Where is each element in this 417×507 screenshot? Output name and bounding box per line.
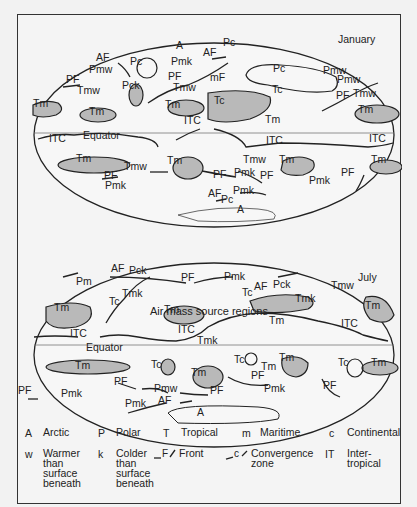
air-mass-label: Pc — [223, 36, 235, 48]
air-mass-label: Pc — [273, 62, 285, 74]
air-mass-label: Tc — [214, 94, 225, 106]
air-mass-label: AF — [96, 51, 109, 63]
air-mass-label: Tm — [75, 359, 90, 371]
air-mass-label: Pck — [122, 79, 140, 91]
air-mass-label: Tm — [191, 366, 206, 378]
air-mass-label: Pmk — [233, 184, 255, 196]
air-mass-label: AF — [158, 394, 171, 406]
air-mass-label: Tm — [279, 153, 294, 165]
air-mass-label: AF — [254, 280, 267, 292]
air-mass-label: A — [176, 39, 183, 51]
air-mass-label: Tmw — [353, 87, 376, 99]
legend-item-warmer: w Warmerthansurfacebeneath — [25, 448, 81, 488]
july-map: PmkAFPckPmPFAFPckTmwTmkTmkTcTcTmTmTmTmIT… — [18, 262, 398, 447]
air-mass-label: Tmw — [77, 84, 100, 96]
air-mass-label: Tmw — [173, 81, 196, 93]
air-mass-label: PF — [336, 89, 349, 101]
air-mass-label: Tm — [265, 113, 280, 125]
air-mass-label: Tm — [358, 103, 373, 115]
svg-text:F: F — [162, 448, 168, 459]
figure-caption: Air mass source regions — [18, 305, 400, 317]
january-map: AFPmwPcAPmkAFPcPFTmwPckmFPFTmwPcTcPmwPmw… — [33, 33, 402, 227]
svg-text:c: c — [234, 448, 239, 459]
legend-item-tropical: TTropical — [163, 427, 218, 439]
air-mass-label: ITC — [70, 327, 87, 339]
legend-item-maritime: mMaritime — [242, 427, 300, 439]
air-mass-label: AF — [203, 46, 216, 58]
air-mass-label: mF — [210, 71, 225, 83]
air-mass-label: ITC — [369, 132, 386, 144]
july-season-label: July — [358, 271, 377, 283]
air-mass-label: Pc — [130, 55, 142, 67]
air-mass-label: Pmk — [171, 55, 193, 67]
air-mass-label: A — [197, 406, 204, 418]
air-mass-label: Tm — [279, 351, 294, 363]
air-mass-label: Tm — [33, 97, 48, 109]
air-mass-label: Pmk — [125, 397, 147, 409]
air-mass-label: Pmk — [234, 166, 256, 178]
air-mass-label: ITC — [341, 317, 358, 329]
air-mass-label: Pmk — [105, 179, 127, 191]
air-mass-label: Tmk — [295, 292, 316, 304]
air-mass-label: Tc — [242, 286, 253, 298]
legend-item-arctic: AArctic — [25, 427, 69, 439]
air-mass-label: A — [237, 203, 244, 215]
air-mass-label: Tmk — [197, 334, 218, 346]
air-mass-label: Tc — [338, 356, 349, 368]
air-mass-label: PF — [18, 384, 31, 396]
air-mass-label: Pmk — [61, 387, 83, 399]
air-mass-label: ITC — [49, 132, 66, 144]
legend-item-colder: k Colderthansurfacebeneath — [98, 448, 154, 488]
air-mass-label: Tmw — [243, 153, 266, 165]
air-mass-label: Pmw — [89, 63, 113, 75]
air-mass-label: Tmk — [122, 287, 143, 299]
air-mass-label: Pmk — [309, 174, 331, 186]
air-mass-label: Equator — [86, 341, 123, 353]
air-mass-label: Pmk — [264, 382, 286, 394]
air-mass-label: Tc — [272, 83, 283, 95]
air-mass-label: PF — [251, 369, 264, 381]
air-mass-label: PF — [181, 271, 194, 283]
air-mass-label: AF — [111, 262, 124, 274]
air-mass-label: PF — [213, 168, 226, 180]
air-mass-label: Tmw — [124, 160, 147, 172]
front-symbol-icon: F — [153, 448, 179, 460]
air-mass-label: ITC — [184, 114, 201, 126]
legend-item-intertropical: IT Inter-tropical — [325, 448, 381, 468]
air-mass-label: Pc — [221, 193, 233, 205]
air-mass-label: Pmk — [224, 270, 246, 282]
air-mass-label: Pmw — [154, 382, 178, 394]
air-mass-label: PF — [323, 379, 336, 391]
air-mass-label: Pm — [76, 275, 92, 287]
air-mass-label: ITC — [266, 134, 283, 146]
air-mass-label: Tmw — [331, 279, 354, 291]
air-mass-label: Tm — [76, 152, 91, 164]
air-mass-label: ITC — [178, 323, 195, 335]
legend-item-front: F Front — [153, 448, 204, 460]
air-mass-label: PF — [341, 166, 354, 178]
air-mass-label: Pck — [273, 278, 291, 290]
air-mass-label: PF — [260, 169, 273, 181]
air-mass-label: AF — [208, 187, 221, 199]
january-season-label: January — [338, 33, 376, 45]
air-mass-label: Tc — [234, 353, 245, 365]
legend-item-convergence-zone: c Convergencezone — [225, 448, 313, 468]
air-mass-label: Pck — [129, 264, 147, 276]
legend-item-continental: cContinental — [329, 427, 400, 439]
legend-item-polar: PPolar — [98, 427, 141, 439]
air-mass-label: Tm — [167, 154, 182, 166]
air-mass-label: Tm — [371, 356, 386, 368]
air-mass-label: Tc — [151, 358, 162, 370]
air-mass-label: Equator — [83, 129, 120, 141]
convergence-symbol-icon: c — [225, 448, 251, 460]
air-mass-label: Pmw — [337, 73, 361, 85]
air-mass-label: Tm — [371, 153, 386, 165]
air-mass-label: Tm — [89, 105, 104, 117]
air-mass-label: PF — [114, 375, 127, 387]
air-mass-label: Tm — [165, 98, 180, 110]
air-mass-label: PF — [210, 384, 223, 396]
